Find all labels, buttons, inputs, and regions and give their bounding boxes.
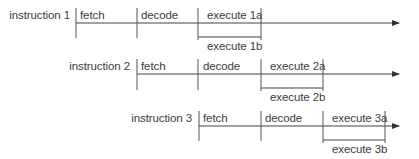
instruction-label: instruction 3 bbox=[124, 112, 192, 125]
timeline-lines bbox=[0, 0, 419, 159]
stage-decode: decode bbox=[265, 112, 302, 125]
pipeline-diagram: instruction 1 fetch decode execute 1a ex… bbox=[0, 0, 419, 159]
stage-fetch: fetch bbox=[203, 112, 227, 125]
stage-fetch: fetch bbox=[141, 60, 165, 73]
stage-execute-b: execute 1b bbox=[207, 40, 262, 53]
stage-execute-a: execute 1a bbox=[207, 9, 262, 22]
instruction-label: instruction 1 bbox=[2, 9, 70, 22]
stage-execute-a: execute 2a bbox=[270, 60, 325, 73]
stage-execute-b: execute 3b bbox=[332, 143, 387, 156]
stage-execute-a: execute 3a bbox=[332, 112, 387, 125]
instruction-label: instruction 2 bbox=[62, 60, 130, 73]
stage-decode: decode bbox=[203, 60, 240, 73]
stage-fetch: fetch bbox=[80, 9, 104, 22]
stage-execute-b: execute 2b bbox=[270, 91, 325, 104]
timeline-row-2 bbox=[137, 59, 399, 91]
stage-decode: decode bbox=[141, 9, 178, 22]
